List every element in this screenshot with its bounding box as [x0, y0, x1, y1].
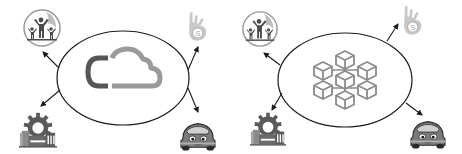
arrow-to-finance — [387, 24, 398, 41]
hand-money-icon — [189, 12, 206, 41]
blockchain-hub-diagram: Blockchain Society Finance Industry Tran… — [231, 0, 462, 154]
arrow-to-society — [264, 53, 280, 65]
cloud-hub-diagram: Cloud Society Finance Industry Transport — [0, 0, 231, 154]
car-icon — [410, 122, 446, 149]
arrow-to-transport — [188, 88, 198, 112]
community-people-icon — [24, 10, 60, 46]
hand-money-icon — [404, 6, 421, 35]
arrow-to-finance — [188, 47, 198, 70]
hub-ellipse — [57, 31, 189, 125]
community-people-icon — [243, 12, 277, 46]
factory-gear-icon — [19, 113, 57, 148]
cloud-icon — [88, 49, 160, 86]
car-icon — [180, 124, 216, 151]
arrow-to-industry — [41, 90, 60, 106]
arrow-to-society — [43, 52, 59, 68]
blockchain-cubes-icon — [314, 51, 376, 109]
arrow-to-industry — [272, 93, 282, 110]
factory-gear-icon — [250, 113, 286, 146]
arrow-to-transport — [406, 103, 422, 115]
